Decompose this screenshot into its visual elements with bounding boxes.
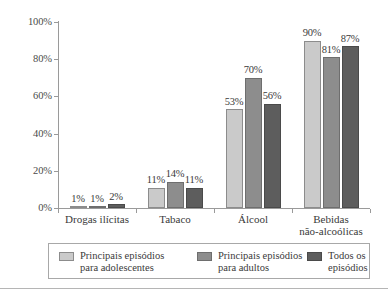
y-axis-tick-label: 20% — [6, 166, 52, 177]
bar-value-label: 11% — [177, 175, 211, 186]
y-axis-tick-label: 40% — [6, 128, 52, 139]
legend-item-label: Principais episódios para adolescentes — [80, 250, 164, 273]
x-axis-category-label: Bebidasnão-alcoólicas — [271, 213, 388, 237]
y-axis-tick-label: 60% — [6, 91, 52, 102]
bar — [89, 206, 106, 208]
bar-value-label: 70% — [236, 65, 270, 76]
legend-swatch-icon — [59, 252, 74, 261]
bottom-divider — [0, 288, 388, 289]
bar — [304, 41, 321, 208]
bar-value-label: 87% — [333, 34, 367, 45]
bar-value-label: 2% — [99, 192, 133, 203]
bar-value-label: 90% — [295, 28, 329, 39]
plot-area: 1%1%2%11%14%11%53%70%56%90%81%87% — [58, 22, 370, 208]
chart-legend: Principais episódios para adolescentesPr… — [48, 243, 370, 279]
legend-item[interactable]: Principais episódios para adolescentes — [59, 250, 164, 273]
bar — [167, 182, 184, 208]
y-axis-tick-label: 100% — [6, 17, 52, 28]
legend-item[interactable]: Principais episódios para adultos — [197, 250, 302, 273]
bar-chart-figure: 0%20%40%60%80%100% 1%1%2%11%14%11%53%70%… — [0, 0, 388, 297]
legend-item[interactable]: Todos os episódios — [307, 250, 368, 273]
bar-value-label: 56% — [255, 91, 289, 102]
bar — [264, 104, 281, 208]
legend-swatch-icon — [197, 252, 212, 261]
bar-group: 11%14%11% — [136, 22, 214, 208]
bar — [108, 204, 125, 208]
bar — [226, 109, 243, 208]
bar-group: 1%1%2% — [58, 22, 136, 208]
legend-swatch-icon — [307, 252, 322, 261]
bar-group: 90%81%87% — [292, 22, 370, 208]
legend-item-label: Principais episódios para adultos — [218, 250, 302, 273]
bar — [186, 188, 203, 208]
y-axis-tick-label: 0% — [6, 203, 52, 214]
bar — [70, 206, 87, 208]
legend-item-label: Todos os episódios — [328, 250, 368, 273]
bar — [342, 46, 359, 208]
bar — [323, 57, 340, 208]
bar — [148, 188, 165, 208]
bar-group: 53%70%56% — [214, 22, 292, 208]
y-axis-tick-label: 80% — [6, 54, 52, 65]
